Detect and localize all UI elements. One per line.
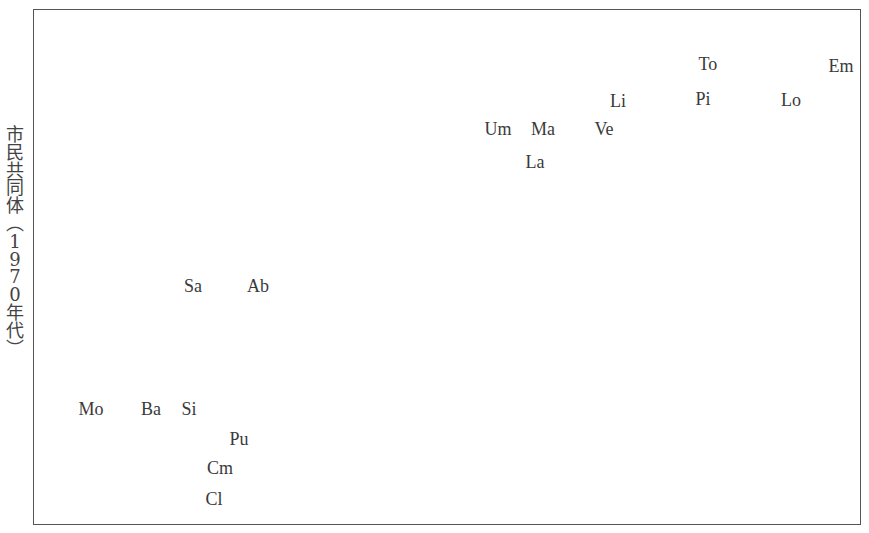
point-label-sa: Sa: [184, 277, 202, 295]
point-label-pu: Pu: [230, 430, 249, 448]
point-label-la: La: [526, 153, 545, 171]
plot-frame: [33, 9, 861, 525]
point-label-ba: Ba: [141, 400, 161, 418]
y-axis-label-char: ︶: [4, 340, 26, 358]
point-label-si: Si: [182, 400, 197, 418]
point-label-cl: Cl: [206, 490, 223, 508]
y-axis-label: 市民共同体︵1970年代︶: [4, 126, 26, 357]
point-label-to: To: [699, 55, 718, 73]
point-label-em: Em: [829, 57, 854, 75]
point-label-cm: Cm: [207, 459, 233, 477]
point-label-ab: Ab: [247, 277, 269, 295]
y-axis-label-char: 代: [4, 322, 26, 340]
point-label-lo: Lo: [781, 91, 801, 109]
point-label-um: Um: [485, 120, 512, 138]
point-label-li: Li: [610, 92, 626, 110]
point-label-mo: Mo: [79, 400, 104, 418]
point-label-ve: Ve: [595, 120, 614, 138]
y-axis-label-char: 民: [4, 144, 26, 162]
point-label-ma: Ma: [531, 120, 555, 138]
y-axis-label-char: 1: [4, 233, 26, 251]
point-label-pi: Pi: [696, 90, 711, 108]
